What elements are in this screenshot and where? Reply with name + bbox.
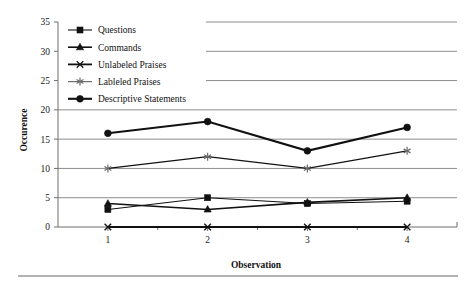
data-point-circle [77,95,84,102]
legend-label: Commands [98,43,142,53]
x-axis-title: Observation [231,260,282,270]
x-tick-label: 3 [305,235,310,245]
circle-marker [104,130,111,137]
y-axis-title: Occurence [19,108,29,151]
y-tick-label: 20 [41,105,51,115]
data-point-circle [104,130,111,137]
legend-label: Questions [98,25,136,35]
circle-marker [77,95,84,102]
data-point-circle [204,118,211,125]
data-point-square [77,27,83,33]
y-tick-label: 25 [41,76,51,86]
legend-label: Descriptive Statements [98,94,186,104]
data-point-circle [404,124,411,131]
square-marker [77,27,83,33]
y-tick-label: 15 [41,135,51,145]
y-tick-label: 0 [45,222,50,232]
y-tick-label: 10 [41,164,51,174]
legend-label: Lableled Praises [98,77,161,87]
circle-marker [304,147,311,154]
square-marker [105,206,111,212]
y-tick-label: 30 [41,47,51,57]
line-chart: 05101520253035 1234 Observation Occurenc… [0,0,475,287]
y-tick-label: 5 [45,193,50,203]
x-tick-label: 2 [205,235,210,245]
x-tick-label: 4 [405,235,410,245]
y-tick-label: 35 [41,17,51,27]
figure-container: 05101520253035 1234 Observation Occurenc… [0,0,475,287]
circle-marker [204,118,211,125]
legend-label: Unlabeled Praises [98,60,167,70]
data-point-square [205,195,211,201]
data-point-circle [304,147,311,154]
circle-marker [404,124,411,131]
x-tick-label: 1 [106,235,111,245]
square-marker [205,195,211,201]
data-point-square [105,206,111,212]
chart-background [0,0,475,287]
